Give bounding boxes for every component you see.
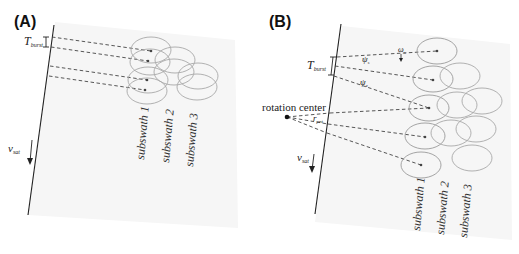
panel-b-label: (B) bbox=[269, 13, 291, 30]
t-burst-label-b: Tburst bbox=[307, 58, 326, 72]
velocity-arrow-a bbox=[27, 140, 33, 165]
rotation-center-label: rotation center bbox=[262, 101, 326, 113]
r-pnt-label: rpnt bbox=[313, 113, 324, 124]
burst-bracket-a bbox=[43, 37, 49, 47]
velocity-arrow-b bbox=[309, 154, 315, 173]
panel-a: (A) Tburst bbox=[8, 13, 238, 228]
t-burst-label-a: Tburst bbox=[24, 34, 43, 48]
v-sat-label-b: vsat bbox=[297, 151, 309, 164]
rotation-center-dot bbox=[285, 115, 290, 120]
figure-canvas: (A) Tburst bbox=[0, 0, 519, 254]
panel-a-paper bbox=[28, 22, 238, 228]
panel-a-label: (A) bbox=[14, 13, 36, 30]
v-sat-label-a: vsat bbox=[8, 142, 20, 155]
panel-b: (B) Tburst bbox=[262, 13, 512, 240]
